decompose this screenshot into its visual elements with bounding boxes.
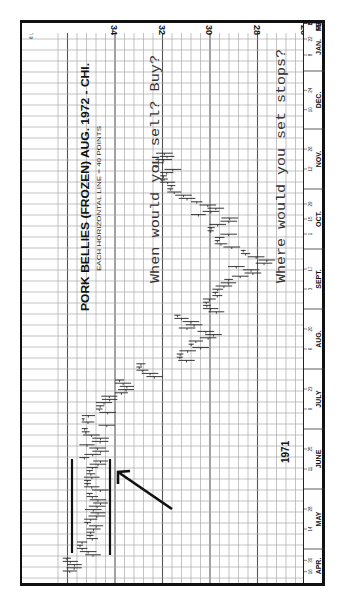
day-label: 19	[308, 23, 313, 26]
month-label: JULY	[315, 390, 322, 408]
day-label: 3	[308, 287, 313, 290]
day-label: 14	[308, 526, 313, 532]
month-label: MAR	[315, 23, 322, 31]
question-sell-buy: When would you sell? Buy?	[149, 55, 163, 283]
price-tick-label: 32	[157, 25, 167, 35]
day-label: 20	[308, 326, 313, 332]
month-label: APR.	[315, 558, 322, 575]
day-label: 29	[308, 201, 313, 207]
arrow-icon	[118, 471, 172, 509]
month-label: MAY	[315, 511, 322, 526]
day-label: 15	[308, 216, 313, 222]
day-label: 8	[308, 53, 313, 56]
day-label: 6	[308, 347, 313, 350]
day-label: 25	[308, 446, 313, 452]
day-label: 11	[308, 466, 313, 471]
day-label: 23	[308, 386, 313, 392]
day-label: 12	[308, 166, 313, 172]
month-label: SEPT.	[315, 269, 322, 289]
chart-subtitle: EACH HORIZONTAL LINE = 40 POINTS	[96, 126, 102, 271]
price-tick-label: 34	[109, 25, 119, 35]
chart-frame: PORK BELLIES (FROZEN) AUG. 1972 - CHI. E…	[20, 20, 325, 586]
price-tick-label: 30	[204, 25, 214, 35]
plot-area: PORK BELLIES (FROZEN) AUG. 1972 - CHI. E…	[22, 23, 303, 583]
date-axis: APR.1630MAY1428JUNE1125JULY923AUG.620SEP…	[303, 23, 325, 583]
day-label: 1	[308, 232, 313, 235]
day-label: 16	[308, 569, 313, 575]
day-label: 28	[308, 506, 313, 512]
price-axis: 3432302826	[22, 23, 303, 53]
month-label: DEC.	[315, 92, 322, 109]
day-label: 17	[308, 266, 313, 272]
chart-title: PORK BELLIES (FROZEN) AUG. 1972 - CHI.	[79, 63, 91, 311]
day-label: 10	[308, 107, 313, 113]
month-label: OCT.	[315, 211, 322, 227]
month-label: JAN.	[315, 39, 322, 55]
annotations: PORK BELLIES (FROZEN) AUG. 1972 - CHI. E…	[22, 23, 303, 583]
day-label: 22	[308, 36, 313, 42]
month-label: NOV.	[315, 151, 322, 168]
day-label: 30	[308, 557, 313, 563]
day-label: 9	[308, 407, 313, 410]
month-label: AUG.	[315, 330, 322, 348]
year-marker: 1971	[280, 440, 291, 463]
month-label: JUNE	[315, 449, 322, 468]
day-label: 26	[308, 146, 313, 152]
price-tick-label: 28	[252, 25, 262, 35]
day-label: 24	[308, 87, 313, 93]
question-stops: Where would you set stops?	[275, 49, 289, 283]
